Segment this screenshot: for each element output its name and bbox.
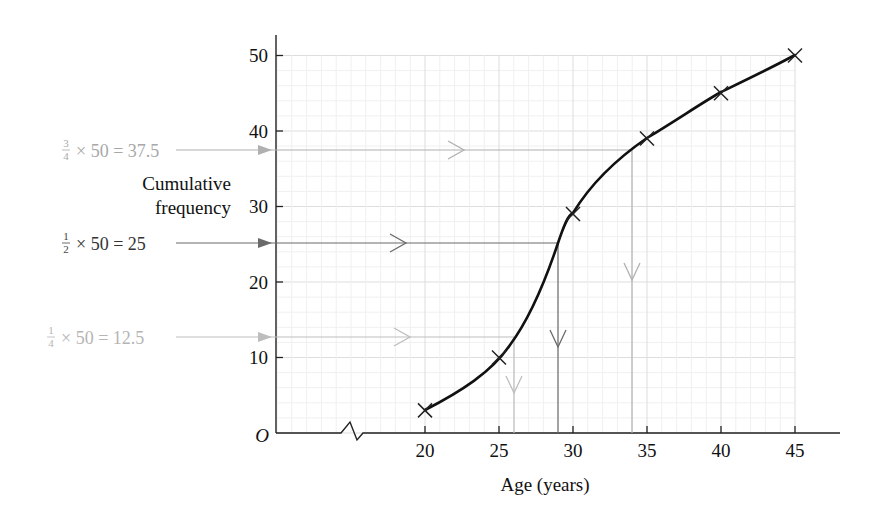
svg-text:4: 4 (63, 150, 69, 162)
x-axis-title: Age (years) (500, 474, 589, 496)
median-label: 1 2 × 50 = 25 (62, 230, 146, 255)
x-tick-label: 40 (712, 440, 731, 461)
cumulative-frequency-chart: 10 20 30 40 50 O 20 25 30 35 40 45 Age (… (0, 0, 871, 526)
x-ticks (425, 426, 795, 433)
y-tick-label: 10 (249, 347, 268, 368)
svg-text:× 50 = 37.5: × 50 = 37.5 (76, 141, 159, 161)
y-tick-label: 30 (249, 196, 268, 217)
svg-text:3: 3 (63, 137, 69, 149)
x-tick-label: 20 (416, 440, 435, 461)
svg-text:× 50 = 12.5: × 50 = 12.5 (61, 328, 144, 348)
origin-label: O (255, 425, 269, 446)
y-tick-label: 50 (249, 45, 268, 66)
upper-quartile-guide (176, 141, 640, 433)
svg-text:4: 4 (48, 337, 54, 349)
svg-text:1: 1 (48, 324, 54, 336)
x-tick-label: 25 (490, 440, 509, 461)
lower-quartile-guide (176, 328, 522, 433)
svg-text:1: 1 (63, 230, 69, 242)
lower-quartile-label: 1 4 × 50 = 12.5 (47, 324, 144, 349)
x-tick-label: 35 (638, 440, 657, 461)
svg-text:2: 2 (63, 243, 69, 255)
y-axis-title-line1: Cumulative (142, 173, 231, 194)
cumulative-frequency-curve (425, 55, 795, 410)
y-tick-labels: 10 20 30 40 50 (249, 45, 268, 368)
x-tick-label: 45 (786, 440, 805, 461)
data-markers (418, 49, 802, 418)
upper-quartile-label: 3 4 × 50 = 37.5 (62, 137, 159, 162)
x-tick-labels: 20 25 30 35 40 45 (416, 440, 805, 461)
grid (277, 56, 795, 434)
svg-text:× 50 = 25: × 50 = 25 (76, 234, 146, 254)
y-axis-title-line2: frequency (155, 197, 231, 218)
y-tick-label: 20 (249, 272, 268, 293)
y-tick-label: 40 (249, 121, 268, 142)
x-tick-label: 30 (564, 440, 583, 461)
